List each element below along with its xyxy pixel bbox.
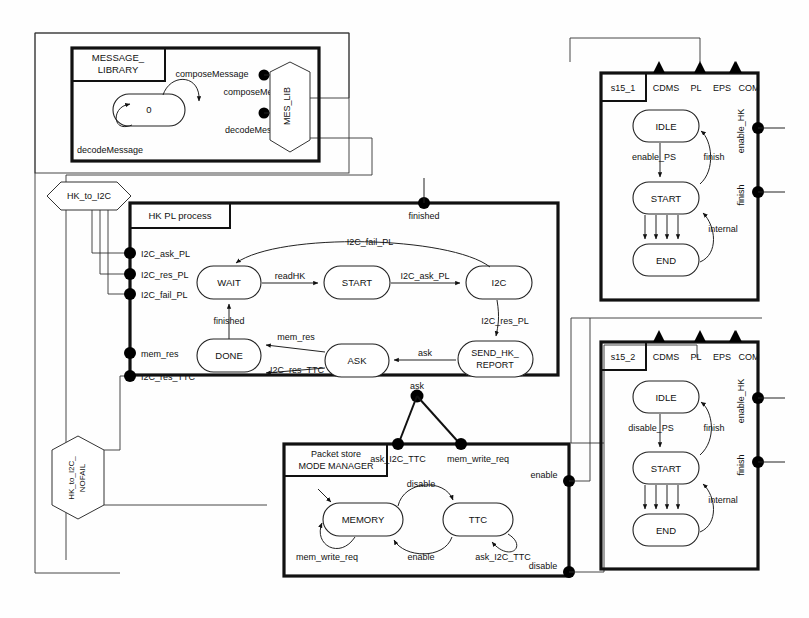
- s15-1-title: s15_1: [611, 83, 636, 93]
- s15-1-header-cdms: CDMS: [653, 83, 680, 93]
- gate-hk-to-i2c-label: HK_to_I2C: [67, 191, 112, 201]
- port-i2c-ask-pl-dot: [124, 247, 136, 259]
- port-pl-triangle-s15-2: [694, 330, 706, 342]
- port-label-i2c-fail-pl: I2C_fail_PL: [141, 290, 188, 300]
- s15-2-header-cdms: CDMS: [653, 352, 680, 362]
- transition-ask-i2c-ttc: ask_I2C_TTC: [475, 552, 531, 562]
- transition-disable: disable: [407, 479, 436, 489]
- port-label-i2c-res-pl: I2C_res_PL: [141, 270, 189, 280]
- port-ask-i2c-ttc-dot: [392, 438, 404, 450]
- port-i2c-res-ttc-dot: [124, 370, 136, 382]
- gate-mes-lib[interactable]: MES_LIB: [270, 62, 310, 152]
- port-label-ask-i2c-ttc: ask_I2C_TTC: [370, 454, 426, 464]
- port-pl-triangle-s15-1: [694, 61, 706, 73]
- transition-finished: finished: [213, 316, 244, 326]
- state-wait-label: WAIT: [217, 277, 241, 288]
- state-done-label: DONE: [215, 350, 242, 361]
- s15-2-header-eps: EPS: [713, 352, 731, 362]
- transition-mem-res: mem_res: [277, 332, 315, 342]
- transition-i2c-res-ttc: I2C_res_TTC: [270, 365, 325, 375]
- s15-1-transition-enable-ps: enable_PS: [632, 152, 676, 162]
- s15-2-port-label-enable-hk: enable_HK: [736, 379, 746, 424]
- packet-store-title-line2: MODE MANAGER: [298, 461, 374, 471]
- s15-2-state-end-label: END: [656, 525, 676, 536]
- s15-1-state-start-label: START: [651, 193, 681, 204]
- state-0-label: 0: [146, 104, 151, 115]
- port-label-enable: enable: [530, 470, 557, 480]
- state-send-hk-report-line1: SEND_HK_: [471, 348, 520, 358]
- port-label-i2c-res-ttc: I2C_res_TTC: [141, 372, 196, 382]
- s15-2-title: s15_2: [611, 352, 636, 362]
- s15-1-header-com: COM: [739, 83, 760, 93]
- s15-2-block[interactable]: s15_2 CDMS PL EPS COM IDLE START END dis…: [601, 330, 785, 569]
- port-com-triangle-s15-1: [730, 61, 742, 73]
- port-mem-res-dot: [124, 347, 136, 359]
- s15-1-transition-finish: finish: [703, 152, 724, 162]
- s15-2-state-start-label: START: [651, 463, 681, 474]
- s15-2-transition-finish: finish: [703, 423, 724, 433]
- s15-2-transition-internal: internal: [708, 495, 738, 505]
- hk-pl-process-block[interactable]: HK PL process finished I2C_ask_PL I2C_re…: [124, 178, 558, 445]
- hk-pl-process-title: HK PL process: [148, 210, 211, 221]
- state-ask-label: ASK: [347, 355, 367, 366]
- message-library-title-line1: MESSAGE_: [92, 52, 145, 63]
- state-send-hk-report-line2: REPORT: [476, 360, 514, 370]
- s15-1-state-end-label: END: [656, 255, 676, 266]
- gate-hk-to-i2c-nofail[interactable]: HK_to_I2C_ NOFAIL: [52, 376, 267, 519]
- port-label-mem-write-req: mem_write_req: [447, 454, 509, 464]
- state-send-hk-report: [458, 341, 533, 377]
- transition-i2c-res-pl: I2C_res_PL: [481, 316, 529, 326]
- transition-i2c-fail-pl: I2C_fail_PL: [347, 237, 394, 247]
- port-mem-write-req-dot: [455, 438, 467, 450]
- port-i2c-fail-pl-dot: [124, 288, 136, 300]
- s15-2-transition-disable-ps: disable_PS: [628, 423, 674, 433]
- state-ttc-label: TTC: [469, 514, 488, 525]
- s15-2-port-label-finish: finish: [736, 454, 746, 475]
- s15-1-header-eps: EPS: [713, 83, 731, 93]
- gate-nofail-label-line1: HK_to_I2C_: [67, 456, 76, 500]
- port-label-ask-bottom: ask: [410, 381, 425, 391]
- transition-ask: ask: [418, 348, 433, 358]
- port-label-finished: finished: [408, 211, 439, 221]
- transition-composeMessage: composeMessage: [175, 69, 248, 79]
- s15-1-block[interactable]: s15_1 CDMS PL EPS COM IDLE START END ena…: [601, 61, 785, 300]
- s15-1-port-label-finish: finish: [736, 184, 746, 205]
- message-library-title-line2: LIBRARY: [98, 64, 139, 75]
- s15-2-header-pl: PL: [690, 352, 701, 362]
- transition-enable: enable: [407, 552, 434, 562]
- port-cdms-triangle-s15-1: [653, 61, 665, 73]
- port-label-mem-res: mem_res: [141, 349, 179, 359]
- s15-1-port-label-enable-hk: enable_HK: [736, 109, 746, 154]
- state-start-label: START: [342, 277, 372, 288]
- s15-1-transition-internal: internal: [708, 224, 738, 234]
- gate-mes-lib-label: MES_LIB: [282, 87, 292, 125]
- s15-2-state-idle-label: IDLE: [655, 392, 676, 403]
- diagram-canvas: MESSAGE_ LIBRARY 0 composeMessage decode…: [0, 0, 809, 618]
- port-i2c-res-pl-dot: [124, 268, 136, 280]
- transition-i2c-ask-pl: I2C_ask_PL: [400, 271, 449, 281]
- state-memory-label: MEMORY: [342, 514, 385, 525]
- transition-decodeMessage: decodeMessage: [77, 145, 143, 155]
- port-label-disable: disable: [529, 561, 558, 571]
- port-cdms-triangle-s15-2: [653, 330, 665, 342]
- transition-readHK: readHK: [275, 271, 306, 281]
- port-com-triangle-s15-2: [730, 330, 742, 342]
- packet-store-title-line1: Packet store: [311, 449, 361, 459]
- s15-1-header-pl: PL: [690, 83, 701, 93]
- s15-1-state-idle-label: IDLE: [655, 121, 676, 132]
- s15-2-header-com: COM: [739, 352, 760, 362]
- gate-hk-to-i2c[interactable]: HK_to_I2C: [47, 182, 131, 294]
- state-i2c-label: I2C: [492, 277, 507, 288]
- gate-nofail-label-line2: NOFAIL: [78, 463, 87, 492]
- transition-mem-write-req: mem_write_req: [296, 552, 358, 562]
- port-label-i2c-ask-pl: I2C_ask_PL: [141, 249, 190, 259]
